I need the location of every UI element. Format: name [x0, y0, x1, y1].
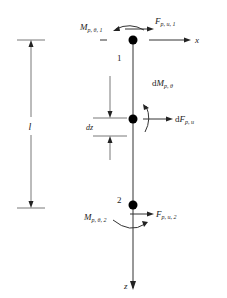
mid-force-arrowhead-icon	[166, 117, 173, 122]
node1-moment-arrowhead-icon	[113, 26, 120, 31]
node-2-label: 2	[117, 195, 122, 205]
l-bottom-arrowhead-icon	[29, 201, 34, 208]
mid-moment-label: dMp, θ	[152, 78, 173, 89]
node2-moment-label: Mp, θ, 2	[83, 212, 106, 223]
x-axis-arrowhead-icon	[184, 38, 191, 43]
dz-bottom-arrowhead-icon	[108, 136, 113, 143]
node1-moment-label: Mp, θ, 1	[79, 22, 102, 33]
node-1-label: 1	[117, 53, 122, 63]
node-2	[129, 201, 138, 210]
node2-moment-arrowhead-icon	[142, 221, 148, 227]
node2-moment-arc	[113, 220, 145, 228]
node1-force-arrowhead-icon	[147, 27, 154, 32]
l-top-arrowhead-icon	[29, 40, 34, 47]
node2-force-arrowhead-icon	[147, 212, 154, 217]
z-axis-arrowhead-icon	[130, 281, 136, 290]
length-label: l	[29, 121, 32, 132]
dz-label: dz	[86, 123, 94, 132]
node-1	[129, 36, 138, 45]
node-mid	[129, 115, 138, 124]
node2-force-label: Fp, u, 2	[155, 209, 177, 220]
x-axis-label: x	[194, 35, 199, 45]
node1-force-label: Fp, u, 1	[154, 16, 176, 27]
mid-moment-arrowhead-icon	[143, 104, 149, 110]
dz-top-arrowhead-icon	[108, 111, 113, 118]
beam-diagram: z x 1 Mp, θ, 1 Fp, u, 1 dMp, θ dFp, u dz	[0, 0, 227, 298]
mid-force-label: dFp, u	[175, 114, 194, 125]
z-axis-label: z	[123, 281, 128, 291]
